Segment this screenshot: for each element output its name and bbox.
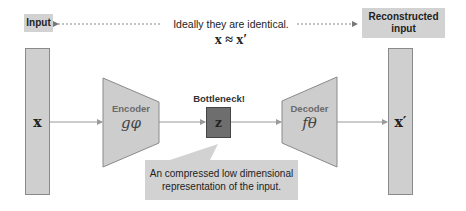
latent-callout: An compressed low dimensional representa…: [145, 160, 298, 200]
latent-symbol: z: [215, 116, 222, 130]
output-vector-symbol: x′: [394, 114, 406, 130]
input-label: Input: [24, 14, 53, 32]
latent-code-box: z: [206, 107, 231, 138]
reconstructed-input-label: Reconstructed input: [362, 8, 445, 38]
decoder-label-group: Decoder fθ: [282, 103, 337, 132]
encoder-label-group: Encoder gφ: [103, 103, 159, 132]
callout-line-2: representation of the input.: [162, 180, 281, 193]
callout-pointer: [170, 144, 218, 160]
decoder-title: Decoder: [282, 103, 337, 114]
input-vector-symbol: x: [33, 114, 41, 130]
input-vector-bar: x: [25, 48, 50, 195]
ideally-identical-text: Ideally they are identical.: [166, 18, 296, 30]
decoder-function: fθ: [282, 114, 337, 132]
bottleneck-label: Bottleneck!: [190, 93, 248, 104]
equation-text: x ≈ x′: [166, 32, 296, 48]
encoder-title: Encoder: [103, 103, 159, 114]
output-vector-bar: x′: [388, 48, 413, 195]
encoder-function: gφ: [103, 114, 159, 132]
callout-line-1: An compressed low dimensional: [150, 167, 293, 180]
